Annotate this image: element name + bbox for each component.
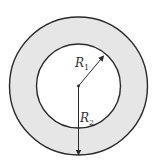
annulus-diagram: R1 R2 — [0, 0, 155, 164]
